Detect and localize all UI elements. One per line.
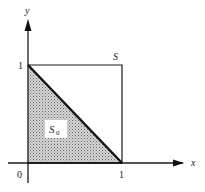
triangle-label-subscript: 0	[56, 129, 60, 137]
y-axis-label: y	[24, 5, 30, 16]
y-tick-label: 1	[18, 60, 23, 71]
x-axis-arrow-icon	[173, 160, 184, 167]
square-label: S	[113, 51, 118, 62]
y-axis-arrow-icon	[25, 19, 32, 31]
x-axis-label: x	[190, 157, 196, 168]
origin-label: 0	[17, 169, 22, 180]
triangle-label: S	[49, 123, 55, 135]
region-diagram: y x 1 1 0 S S 0	[0, 0, 205, 192]
x-tick-label: 1	[119, 169, 124, 180]
